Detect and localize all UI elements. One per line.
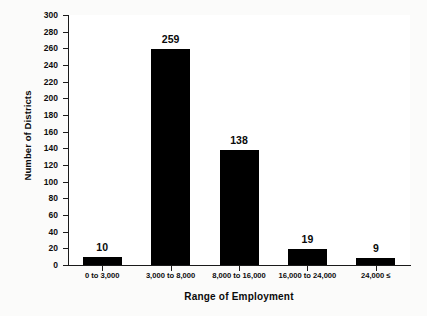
y-tick-mark bbox=[63, 265, 68, 266]
y-tick-mark bbox=[63, 15, 68, 16]
bar bbox=[288, 249, 327, 265]
y-tick-label: 280 bbox=[18, 28, 58, 37]
y-tick-label: 220 bbox=[18, 78, 58, 87]
y-tick-mark bbox=[63, 48, 68, 49]
y-tick-mark bbox=[63, 98, 68, 99]
y-tick-label: 140 bbox=[18, 144, 58, 153]
y-tick-mark bbox=[63, 198, 68, 199]
y-tick-label: 240 bbox=[18, 61, 58, 70]
x-category-label: 24,000 ≤ bbox=[331, 271, 421, 280]
y-tick-label: 60 bbox=[18, 211, 58, 220]
y-tick-label: 80 bbox=[18, 194, 58, 203]
bar-chart: Number of Districts Range of Employment … bbox=[0, 0, 427, 316]
y-tick-label: 160 bbox=[18, 128, 58, 137]
y-tick-label: 120 bbox=[18, 161, 58, 170]
y-tick-mark bbox=[63, 65, 68, 66]
x-axis-title: Range of Employment bbox=[68, 291, 410, 302]
y-tick-label: 20 bbox=[18, 244, 58, 253]
bar-value-label: 10 bbox=[72, 241, 132, 253]
y-tick-label: 40 bbox=[18, 228, 58, 237]
bar bbox=[356, 258, 395, 266]
bar bbox=[151, 49, 190, 265]
bar-value-label: 259 bbox=[141, 33, 201, 45]
y-tick-mark bbox=[63, 115, 68, 116]
y-tick-mark bbox=[63, 215, 68, 216]
y-tick-mark bbox=[63, 248, 68, 249]
y-tick-mark bbox=[63, 232, 68, 233]
y-tick-mark bbox=[63, 148, 68, 149]
y-tick-label: 180 bbox=[18, 111, 58, 120]
y-tick-mark bbox=[63, 32, 68, 33]
y-axis-line bbox=[68, 15, 69, 266]
bar bbox=[220, 150, 259, 265]
bar bbox=[83, 257, 122, 265]
bar-value-label: 138 bbox=[209, 134, 269, 146]
bar-value-label: 19 bbox=[277, 233, 337, 245]
y-tick-label: 200 bbox=[18, 94, 58, 103]
y-tick-mark bbox=[63, 132, 68, 133]
y-tick-mark bbox=[63, 182, 68, 183]
y-tick-label: 0 bbox=[18, 261, 58, 270]
y-tick-label: 260 bbox=[18, 44, 58, 53]
y-tick-label: 100 bbox=[18, 178, 58, 187]
y-tick-mark bbox=[63, 165, 68, 166]
y-tick-mark bbox=[63, 82, 68, 83]
bar-value-label: 9 bbox=[346, 242, 406, 254]
y-tick-label: 300 bbox=[18, 11, 58, 20]
